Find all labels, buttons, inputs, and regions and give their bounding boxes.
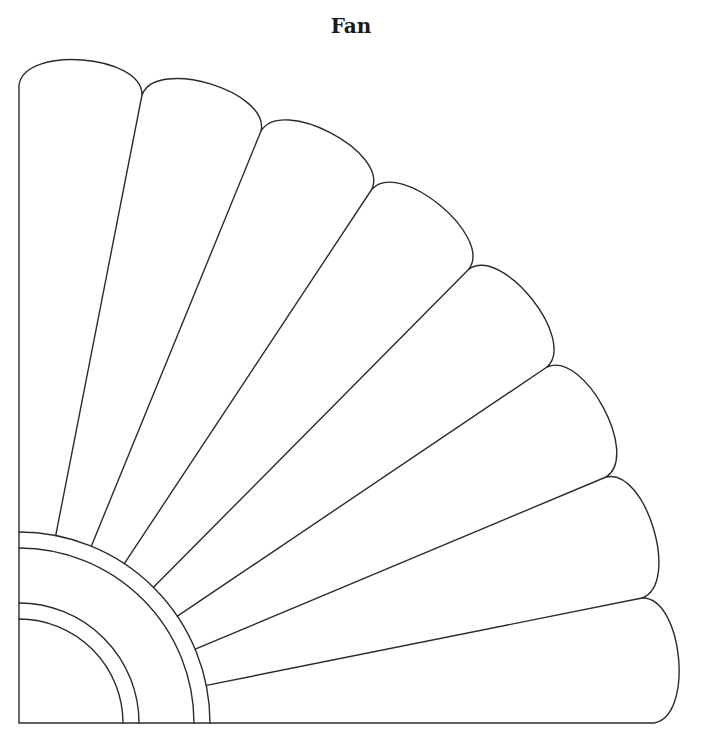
- fan-diagram: [0, 0, 702, 745]
- fan-outline: [19, 60, 679, 723]
- fan-rings: [19, 532, 210, 723]
- blade-divider-line: [154, 269, 470, 587]
- center-ring-arc: [19, 548, 194, 723]
- fan-blade-lines: [56, 95, 642, 685]
- blade-divider-line: [206, 598, 642, 685]
- center-ring-arc: [19, 532, 210, 723]
- blade-divider-line: [56, 95, 142, 536]
- center-ring-arc: [19, 619, 123, 723]
- blade-divider-line: [91, 131, 261, 546]
